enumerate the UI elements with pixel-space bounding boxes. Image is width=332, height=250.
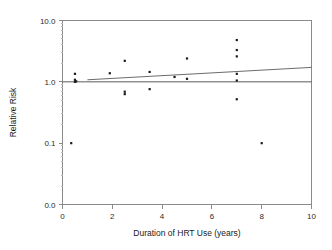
data-point — [124, 60, 126, 62]
data-point — [124, 91, 126, 93]
x-axis-title: Duration of HRT Use (years) — [133, 228, 241, 238]
x-tick-label: 10 — [307, 212, 316, 221]
data-point — [74, 73, 76, 75]
x-tick-label: 8 — [259, 212, 264, 221]
y-tick-label: 0.0 — [44, 201, 56, 210]
y-tick-label: 0.1 — [44, 139, 56, 148]
data-point — [149, 88, 151, 90]
data-point — [186, 78, 188, 80]
data-point — [75, 80, 77, 82]
data-point — [236, 55, 238, 57]
trend-line — [87, 67, 311, 79]
x-tick-label: 0 — [60, 212, 65, 221]
data-point — [236, 73, 238, 75]
data-point — [149, 71, 151, 73]
data-point — [236, 49, 238, 51]
data-point — [70, 142, 72, 144]
data-point — [236, 39, 238, 41]
relative-risk-scatter-plot: 10.01.00.10.00246810Duration of HRT Use … — [0, 0, 332, 250]
chart-figure: 10.01.00.10.00246810Duration of HRT Use … — [0, 0, 332, 250]
data-point — [109, 72, 111, 74]
data-point — [261, 142, 263, 144]
ticks-group — [59, 21, 312, 209]
data-point — [236, 98, 238, 100]
y-axis-title: Relative Risk — [8, 87, 18, 137]
axes-group — [63, 21, 312, 205]
data-point — [186, 57, 188, 59]
y-tick-label: 1.0 — [44, 78, 56, 87]
x-tick-label: 2 — [110, 212, 115, 221]
y-tick-label: 10.0 — [40, 17, 56, 26]
data-point — [236, 79, 238, 81]
x-tick-label: 4 — [160, 212, 165, 221]
data-point — [173, 76, 175, 78]
data-point — [124, 93, 126, 95]
data-points-group — [70, 39, 263, 144]
x-tick-label: 6 — [210, 212, 215, 221]
